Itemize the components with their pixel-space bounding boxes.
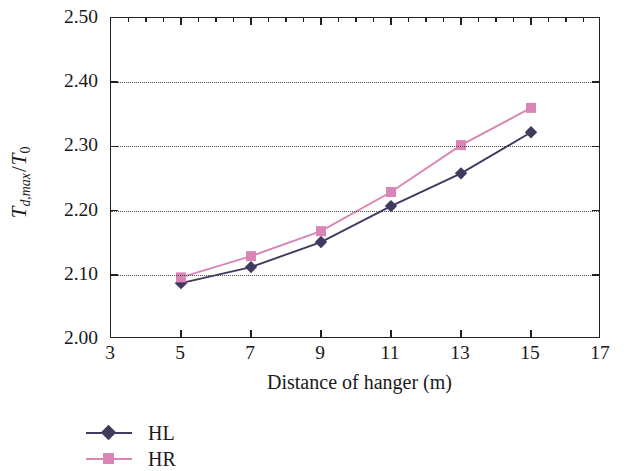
legend-label: HR [132,448,176,471]
legend-marker-hr-icon [86,449,132,469]
y-axis-tick [592,146,599,148]
x-axis-minor-tick [425,18,426,22]
chart-legend: HLHR [86,420,346,471]
y-axis-tick [111,146,118,148]
data-point [526,103,536,113]
y-axis-tick [111,274,118,276]
x-axis-minor-tick [215,18,216,22]
x-axis-minor-tick [320,18,321,22]
data-point [386,187,396,197]
legend-diamond-icon [101,425,117,441]
y-axis-tick [111,81,118,83]
x-axis-title: Distance of hanger (m) [0,371,633,394]
x-axis-minor-tick [443,18,444,22]
legend-label: HL [132,422,175,445]
chart-figure: 2.002.102.202.302.402.50 Td,max/T0 35791… [0,0,633,471]
y-axis-tick-label: 2.50 [64,6,98,28]
x-axis-minor-tick [145,18,146,22]
x-axis-minor-tick [460,18,461,22]
legend-marker-hl-icon [86,423,132,443]
legend-item-hl[interactable]: HL [86,420,346,446]
y-axis-title-main2: T [8,153,32,165]
series-hl [175,126,537,289]
data-point [245,261,257,273]
x-axis-minor-tick [513,18,514,22]
data-point [525,126,537,138]
x-axis-tick-label: 3 [105,342,115,364]
x-axis-minor-tick [268,18,269,22]
y-axis-tick-label: 2.20 [64,199,98,221]
x-axis-minor-tick [565,18,566,22]
x-axis-tick-labels: 357911131517 [0,342,633,372]
series-line [181,108,531,277]
x-axis-tick [390,330,392,337]
x-axis-minor-tick [478,18,479,22]
x-axis-minor-tick [128,18,129,22]
x-axis-minor-tick [338,18,339,22]
x-axis-minor-tick [495,18,496,22]
y-axis-title-slash: / [8,165,32,173]
x-axis-tick-label: 5 [175,342,185,364]
y-axis-tick-label: 2.10 [64,263,98,285]
plot-area [110,17,600,338]
x-axis-minor-tick [530,18,531,22]
x-axis-minor-tick [408,18,409,22]
y-axis-tick [111,210,118,212]
gridline-y [111,211,599,212]
x-axis-tick [320,330,322,337]
data-point [316,226,326,236]
x-axis-minor-tick [285,18,286,22]
series-hr [176,103,536,282]
legend-item-hr[interactable]: HR [86,446,346,471]
y-axis-title-sub: d,max [18,173,33,207]
y-axis-tick [592,81,599,83]
y-axis-title-sub2: 0 [18,146,33,153]
x-axis-minor-tick [180,18,181,22]
x-axis-minor-tick [198,18,199,22]
x-axis-minor-tick [390,18,391,22]
y-axis-tick [592,210,599,212]
data-point [455,167,467,179]
x-axis-tick-label: 11 [381,342,400,364]
data-point [456,140,466,150]
x-axis-minor-tick [163,18,164,22]
x-axis-tick-label: 13 [450,342,470,364]
x-axis-tick-label: 9 [315,342,325,364]
x-axis-minor-tick [583,18,584,22]
x-axis-minor-tick [373,18,374,22]
x-axis-minor-tick [233,18,234,22]
series-container [111,18,601,339]
x-axis-tick [180,330,182,337]
y-axis-tick [592,274,599,276]
x-axis-title-text: Distance of hanger (m) [267,371,452,394]
x-axis-tick [460,330,462,337]
gridline-y [111,146,599,147]
x-axis-minor-tick [355,18,356,22]
x-axis-tick [530,330,532,337]
x-axis-tick-label: 7 [245,342,255,364]
data-point [246,251,256,261]
y-axis-title-main: T [8,206,32,218]
y-axis-tick-label: 2.40 [64,70,98,92]
y-axis-title: Td,max/T0 [4,92,38,272]
gridline-y [111,275,599,276]
legend-square-icon [103,453,114,464]
x-axis-tick-label: 17 [590,342,610,364]
y-axis-tick-label: 2.30 [64,134,98,156]
data-point [315,236,327,248]
x-axis-tick [250,330,252,337]
x-axis-minor-tick [548,18,549,22]
x-axis-minor-tick [250,18,251,22]
gridline-y [111,82,599,83]
x-axis-minor-tick [303,18,304,22]
x-axis-tick-label: 15 [520,342,540,364]
